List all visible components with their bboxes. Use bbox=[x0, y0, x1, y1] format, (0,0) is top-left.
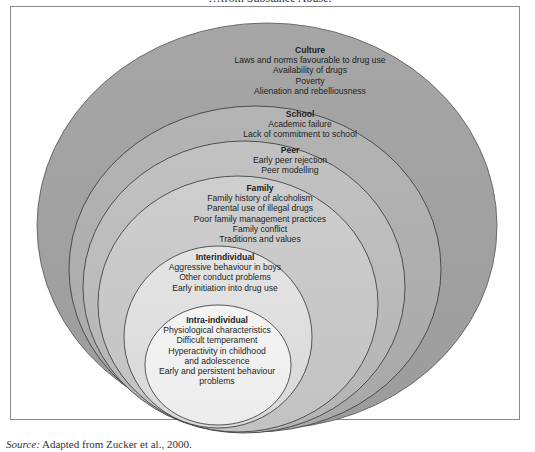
layer-item: Early initiation into drug use bbox=[160, 283, 290, 293]
layer-item: Early and persistent behaviour bbox=[152, 366, 282, 376]
source-text: Adapted from Zucker et al., 2000. bbox=[42, 438, 192, 450]
layer-item: Availability of drugs bbox=[200, 65, 420, 75]
layer-item: Early peer rejection bbox=[220, 155, 360, 165]
layer-title: Culture bbox=[200, 45, 420, 55]
layer-item: Aggressive behaviour in boys bbox=[160, 262, 290, 272]
layer-title: Interindividual bbox=[160, 252, 290, 262]
layer-school-text: School Academic failure Lack of commitme… bbox=[220, 109, 380, 140]
layer-culture-text: Culture Laws and norms favourable to dru… bbox=[200, 45, 420, 96]
layer-item: Poverty bbox=[200, 76, 420, 86]
layer-title: Intra-individual bbox=[152, 315, 282, 325]
layer-title: Family bbox=[180, 183, 340, 193]
layer-interindividual-text: Interindividual Aggressive behaviour in … bbox=[160, 252, 290, 293]
source-label: Source: bbox=[6, 438, 40, 450]
layer-item: Hyperactivity in childhood bbox=[152, 346, 282, 356]
layer-item: Academic failure bbox=[220, 119, 380, 129]
layer-intraindividual-text: Intra-individual Physiological character… bbox=[152, 315, 282, 386]
layer-title: School bbox=[220, 109, 380, 119]
layer-item: Alienation and rebelliousness bbox=[200, 86, 420, 96]
layer-item: Traditions and values bbox=[180, 234, 340, 244]
layer-item: Parental use of illegal drugs bbox=[180, 203, 340, 213]
layer-title: Peer bbox=[220, 145, 360, 155]
layer-item: Difficult temperament bbox=[152, 335, 282, 345]
layer-item: Physiological characteristics bbox=[152, 325, 282, 335]
layer-item: Lack of commitment to school bbox=[220, 129, 380, 139]
layer-item: Family history of alcoholism bbox=[180, 193, 340, 203]
layer-family-text: Family Family history of alcoholism Pare… bbox=[180, 183, 340, 244]
layer-item: Other conduct problems bbox=[160, 272, 290, 282]
layer-item: Peer modelling bbox=[220, 165, 360, 175]
layer-peer-text: Peer Early peer rejection Peer modelling bbox=[220, 145, 360, 176]
layer-item: Laws and norms favourable to drug use bbox=[200, 55, 420, 65]
layer-item: problems bbox=[152, 376, 282, 386]
layer-item: and adolescence bbox=[152, 356, 282, 366]
source-note: Source: Adapted from Zucker et al., 2000… bbox=[6, 438, 192, 450]
layer-item: Family conflict bbox=[180, 224, 340, 234]
layer-item: Poor family management practices bbox=[180, 214, 340, 224]
